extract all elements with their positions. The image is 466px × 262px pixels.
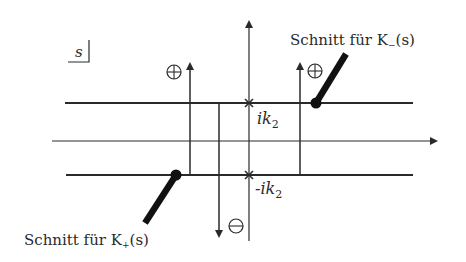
- pole-label-lower: -ik2: [255, 179, 282, 201]
- plus-icon-right: [308, 64, 322, 78]
- contour-diagram: s ik2 -ik2 Sc: [0, 0, 466, 262]
- label-cut-k-minus: Schnitt für K−(s): [290, 31, 415, 50]
- branch-cut-k-minus: [311, 54, 347, 109]
- plus-icon-left: [167, 65, 181, 79]
- label-cut-k-plus: Schnitt für K+(s): [24, 231, 149, 250]
- pole-label-upper: ik2: [257, 109, 279, 131]
- plane-label: s: [68, 40, 89, 62]
- minus-icon: [229, 219, 243, 233]
- plane-label-text: s: [75, 43, 83, 61]
- branch-cut-k-plus: [145, 170, 182, 224]
